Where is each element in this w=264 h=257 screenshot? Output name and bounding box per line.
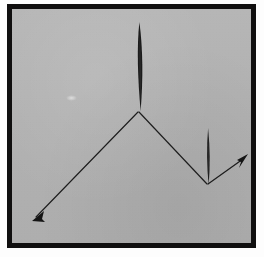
- right-limb-line: [208, 159, 243, 184]
- figure-frame: Vector zigzag figure Zigzag polyline wit…: [7, 4, 256, 248]
- vector-diagram: [12, 9, 251, 243]
- photographic-plate: Vector zigzag figure Zigzag polyline wit…: [0, 0, 264, 257]
- middle-limb-line: [139, 112, 207, 184]
- left-limb-line: [36, 112, 138, 217]
- zigzag-path-group: [36, 112, 243, 217]
- left-arrowhead-icon: [32, 211, 45, 222]
- right-arrowhead-icon: [237, 154, 248, 168]
